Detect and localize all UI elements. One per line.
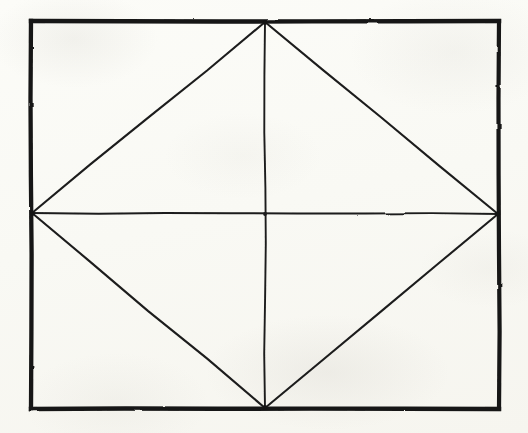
figure-canvas [0,0,528,433]
vertex-top-marker [263,20,268,25]
rhombus-edge-bottom-right [265,214,498,408]
rhombus-edge-top-right [265,22,498,214]
geometric-drawing [0,0,528,433]
vertex-right-marker [495,212,500,217]
vertex-bottom-marker [263,405,268,410]
vertex-left-marker [30,211,35,216]
rhombus-edge-top-left [32,22,265,213]
rhombus-edge-bottom-left [32,213,265,408]
center-intersection-marker [263,212,267,216]
